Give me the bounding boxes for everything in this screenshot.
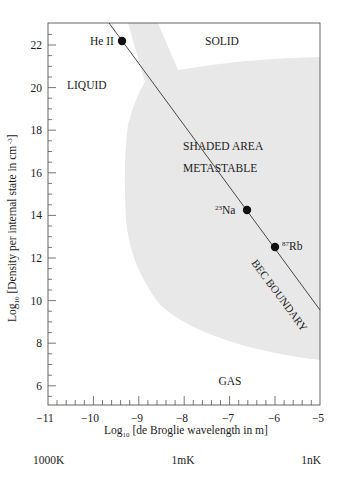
svg-text:12: 12: [31, 252, 43, 264]
svg-text:−5: −5: [312, 412, 324, 424]
svg-text:−10: −10: [81, 412, 99, 424]
svg-text:−11: −11: [36, 412, 54, 424]
svg-text:18: 18: [31, 124, 43, 136]
y-axis-ticks: [48, 34, 56, 396]
x-axis-label: Log10 [de Broglie wavelength in m]: [104, 424, 268, 439]
metastable-label: METASTABLE: [183, 162, 257, 174]
region-label-gas: GAS: [218, 375, 241, 387]
svg-text:14: 14: [31, 209, 43, 221]
svg-text:−7: −7: [222, 412, 234, 424]
svg-text:6: 6: [36, 380, 42, 392]
x-axis-ticks: [57, 396, 311, 405]
point-he-ii: [118, 37, 126, 45]
point-na23: [243, 206, 251, 214]
region-label-solid: SOLID: [205, 35, 239, 47]
y-axis-label: Log10 [Density per internal state in cm …: [6, 134, 21, 322]
point-rb87: [271, 243, 279, 251]
svg-text:16: 16: [31, 167, 43, 179]
svg-text:22: 22: [31, 39, 43, 51]
svg-text:8: 8: [36, 337, 42, 349]
svg-text:−8: −8: [176, 412, 188, 424]
region-label-liquid: LIQUID: [67, 79, 107, 91]
svg-text:−6: −6: [268, 412, 280, 424]
point-label-he-ii: He II: [90, 35, 114, 47]
temperature-labels: 1000K 1mK 1nK: [33, 454, 322, 466]
svg-text:1000K: 1000K: [33, 454, 65, 466]
y-tick-labels: 22 20 18 16 14 12 10 8 6: [31, 39, 43, 392]
svg-text:20: 20: [31, 82, 43, 94]
phase-diagram-chart: 22 20 18 16 14 12 10 8 6 −11 −10 −9 −8 −…: [0, 0, 343, 483]
svg-text:1nK: 1nK: [301, 454, 322, 466]
shaded-area-label: SHADED AREA: [183, 140, 264, 152]
svg-text:−9: −9: [131, 412, 143, 424]
svg-text:10: 10: [31, 295, 43, 307]
svg-text:1mK: 1mK: [172, 454, 196, 466]
x-tick-labels: −11 −10 −9 −8 −7 −6 −5: [36, 412, 324, 424]
